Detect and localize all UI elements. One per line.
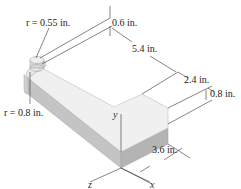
label-5-4: 5.4 in.	[132, 43, 157, 54]
label-2-4: 2.4 in.	[184, 74, 209, 85]
label-3-6: 3.6 in.	[152, 144, 177, 155]
label-r-bottom: r = 0.8 in.	[4, 107, 43, 118]
axis-label-z: z	[87, 179, 92, 189]
label-r-top: r = 0.55 in.	[26, 17, 70, 28]
label-0-6: 0.6 in.	[112, 17, 137, 28]
axis-label-x: x	[149, 179, 155, 189]
bar-body	[24, 62, 168, 169]
axis-label-y: y	[112, 109, 118, 120]
label-0-8: 0.8 in.	[210, 88, 235, 99]
bent-bar-diagram: r = 0.55 in. r = 0.8 in. 0.6 in. 5.4 in.…	[0, 0, 241, 189]
